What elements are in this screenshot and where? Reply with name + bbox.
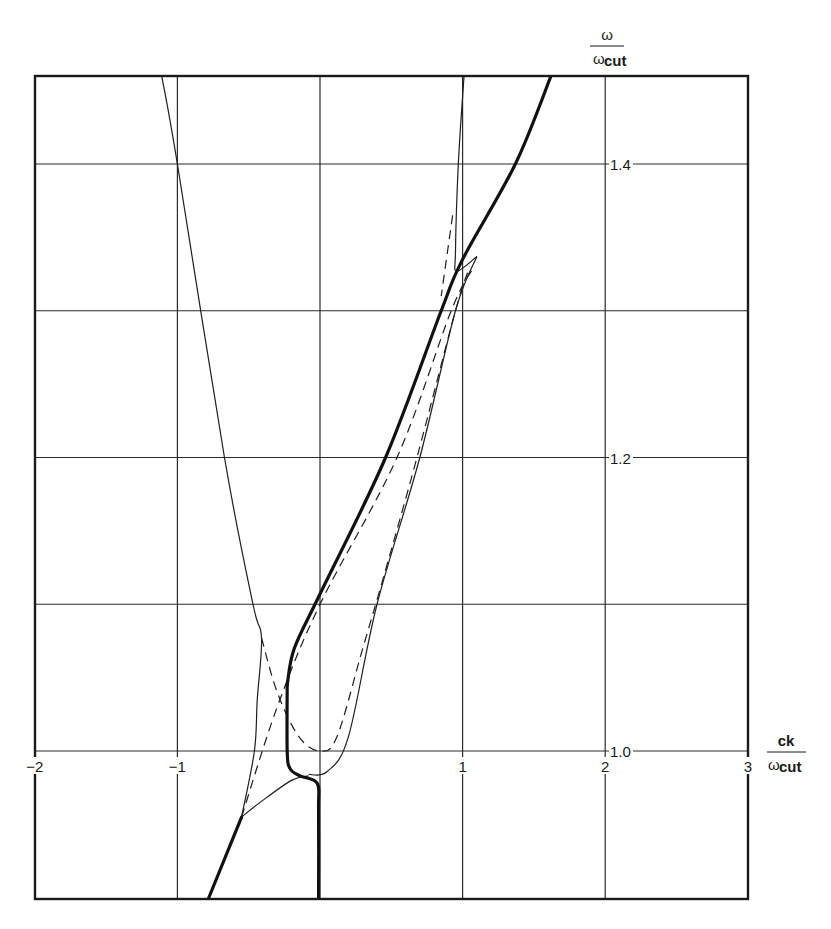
y-tick-label: 1.4 <box>610 156 631 173</box>
y-axis-denominator-sub: cut <box>604 52 627 69</box>
x-axis-label: ck ω cut <box>767 732 806 775</box>
plot-frame <box>35 76 748 899</box>
thin-curve <box>162 76 262 817</box>
y-tick-label: 1.0 <box>610 743 631 760</box>
dashed-curve <box>262 267 470 751</box>
y-axis-numerator: ω <box>601 26 613 43</box>
x-tick-label: 2 <box>601 758 609 775</box>
x-tick-label: 3 <box>744 758 752 775</box>
thick-curve <box>209 817 242 898</box>
grid-lines <box>35 76 748 899</box>
thick-curve <box>287 76 551 685</box>
x-tick-label: −2 <box>26 758 43 775</box>
thin-curve <box>309 256 477 775</box>
dashed-curve <box>242 267 474 817</box>
dispersion-chart: −2−11231.01.21.4 ω ω cut ck ω cut <box>0 0 831 929</box>
y-axis-label: ω ω cut <box>590 26 627 69</box>
x-axis-denominator-sub: cut <box>779 758 802 775</box>
x-tick-label: −1 <box>169 758 186 775</box>
plot-border <box>35 76 748 899</box>
thin-curve <box>242 776 309 817</box>
x-axis-numerator: ck <box>778 732 795 749</box>
curves <box>162 76 551 898</box>
thick-curve <box>287 685 319 898</box>
tick-labels: −2−11231.01.21.4 <box>25 156 758 775</box>
x-tick-label: 1 <box>458 758 466 775</box>
y-tick-label: 1.2 <box>610 450 631 467</box>
